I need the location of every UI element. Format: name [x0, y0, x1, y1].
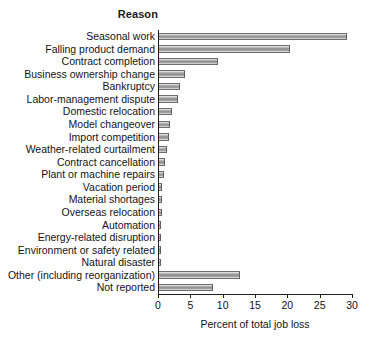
bar-row: Vacation period [158, 181, 352, 194]
bar [159, 246, 161, 254]
bar-row: Overseas relocation [158, 206, 352, 219]
bar-row: Model changeover [158, 118, 352, 131]
bar [159, 209, 162, 217]
bar-row: Material shortages [158, 193, 352, 206]
category-label: Weather-related curtailment [26, 143, 155, 156]
bar [159, 259, 161, 267]
bar [159, 146, 167, 154]
bar [159, 196, 162, 204]
x-axis-tick-mark [190, 294, 191, 298]
bar [159, 83, 180, 91]
category-label: Natural disaster [81, 256, 155, 269]
category-label: Automation [102, 219, 155, 232]
category-label: Environment or safety related [18, 244, 155, 257]
bar-row: Weather-related curtailment [158, 143, 352, 156]
bar-row: Other (including reorganization) [158, 269, 352, 282]
x-axis-tick-mark [320, 294, 321, 298]
x-axis-tick-mark [223, 294, 224, 298]
category-label: Contract cancellation [57, 156, 155, 169]
bar-row: Automation [158, 219, 352, 232]
category-label: Other (including reorganization) [8, 269, 155, 282]
bar-row: Import competition [158, 131, 352, 144]
bar [159, 133, 169, 141]
bar-row: Environment or safety related [158, 244, 352, 257]
category-label: Energy-related disruption [38, 231, 155, 244]
bar-row: Contract cancellation [158, 156, 352, 169]
category-label: Material shortages [69, 193, 155, 206]
bar [159, 58, 218, 66]
bar-row: Not reported [158, 281, 352, 294]
bar-row: Falling product demand [158, 43, 352, 56]
category-label: Contract completion [62, 55, 155, 68]
x-axis-tick-label: 25 [314, 299, 326, 311]
bar-row: Domestic relocation [158, 105, 352, 118]
bar [159, 271, 240, 279]
bar-row: Energy-related disruption [158, 231, 352, 244]
category-label: Import competition [69, 131, 155, 144]
category-label: Seasonal work [86, 30, 155, 43]
x-axis-tick-label: 30 [346, 299, 358, 311]
x-axis-tick-label: 0 [155, 299, 161, 311]
x-axis-title: Percent of total job loss [158, 318, 352, 330]
bar-row: Bankruptcy [158, 80, 352, 93]
bar [159, 234, 161, 242]
x-axis-tick-label: 15 [249, 299, 261, 311]
bar-row: Seasonal work [158, 30, 352, 43]
bar-row: Plant or machine repairs [158, 168, 352, 181]
category-label: Falling product demand [45, 43, 155, 56]
category-label: Not reported [97, 281, 155, 294]
bar [159, 33, 347, 41]
chart-column-heading: Reason [0, 8, 158, 20]
bar [159, 158, 165, 166]
bar [159, 95, 178, 103]
category-label: Domestic relocation [63, 105, 155, 118]
category-label: Model changeover [69, 118, 155, 131]
x-axis-tick-label: 5 [187, 299, 193, 311]
bar [159, 221, 161, 229]
category-label: Plant or machine repairs [41, 168, 155, 181]
bar [159, 183, 162, 191]
bar [159, 108, 172, 116]
category-label: Bankruptcy [102, 80, 155, 93]
x-axis-tick-label: 20 [281, 299, 293, 311]
category-label: Business ownership change [24, 68, 155, 81]
x-axis-tick-mark [287, 294, 288, 298]
plot-area: Seasonal workFalling product demandContr… [158, 30, 352, 294]
bar [159, 284, 213, 292]
x-axis-tick-mark [255, 294, 256, 298]
bar [159, 121, 170, 129]
x-axis-tick-mark [158, 294, 159, 298]
bar [159, 45, 290, 53]
x-axis-tick-label: 10 [217, 299, 229, 311]
bar-row: Natural disaster [158, 256, 352, 269]
bar-row: Labor-management dispute [158, 93, 352, 106]
bar [159, 171, 164, 179]
category-label: Vacation period [83, 181, 155, 194]
bar-row: Contract completion [158, 55, 352, 68]
category-label: Labor-management dispute [27, 93, 155, 106]
x-axis-tick-mark [352, 294, 353, 298]
bar-chart-figure: Reason Seasonal workFalling product dema… [0, 0, 370, 341]
bar-row: Business ownership change [158, 68, 352, 81]
bar [159, 70, 185, 78]
category-label: Overseas relocation [62, 206, 155, 219]
